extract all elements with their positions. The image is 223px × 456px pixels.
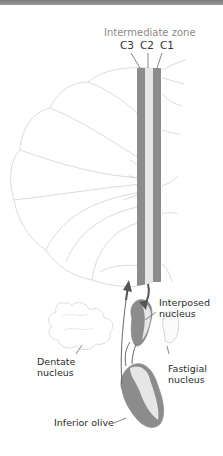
inferior-olive-label: Inferior olive <box>54 417 114 428</box>
cerebellum-diagram <box>0 0 223 456</box>
zone-c2-strip <box>145 68 153 286</box>
up-arrow-icon <box>123 280 132 292</box>
intermediate-zone-label: Intermediate zone <box>104 27 196 38</box>
zone-c3-label: C3 <box>120 40 134 51</box>
zone-leader-lines <box>131 53 162 68</box>
dentate-nucleus-label-2: nucleus <box>37 367 74 378</box>
fastigial-nucleus-label-1: Fastigial <box>168 363 207 374</box>
dentate-nucleus-shape <box>49 303 113 350</box>
interposed-nucleus-label-1: Interposed <box>159 297 210 308</box>
zone-c1-label: C1 <box>160 40 174 51</box>
zone-c1-strip <box>153 68 161 282</box>
dentate-nucleus-label-1: Dentate <box>37 356 75 367</box>
zone-column <box>137 68 161 290</box>
interposed-nucleus-label-2: nucleus <box>159 308 196 319</box>
zone-c2-label: C2 <box>140 40 154 51</box>
fastigial-nucleus-label-2: nucleus <box>168 374 205 385</box>
zone-c3-strip <box>137 68 145 286</box>
